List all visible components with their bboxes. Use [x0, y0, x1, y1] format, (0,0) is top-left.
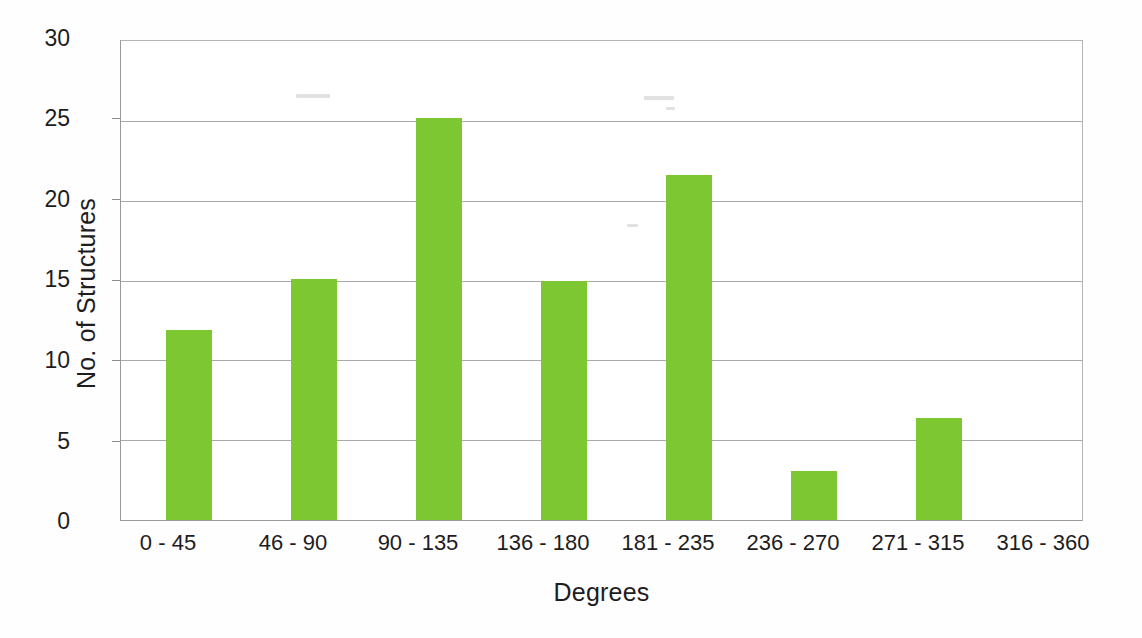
gridline-15	[121, 281, 1082, 282]
scan-artifact	[627, 224, 638, 227]
x-tick-label-5: 236 - 270	[733, 531, 853, 555]
x-tick-label-1: 46 - 90	[233, 531, 353, 555]
x-tick-label-6: 271 - 315	[858, 531, 978, 555]
bar-136-180[interactable]	[541, 281, 587, 521]
gridline-20	[121, 201, 1082, 202]
plot-area	[120, 40, 1083, 521]
y-tick-label-10: 10	[22, 349, 70, 372]
scan-artifact	[296, 94, 330, 98]
y-tick-mark-10	[112, 360, 120, 361]
scan-artifact	[666, 107, 675, 110]
y-tick-label-30: 30	[22, 27, 70, 50]
y-tick-mark-20	[112, 199, 120, 200]
y-tick-label-5: 5	[22, 430, 70, 453]
x-tick-label-7: 316 - 360	[983, 531, 1103, 555]
y-tick-label-25: 25	[22, 107, 70, 130]
y-tick-mark-15	[112, 280, 120, 281]
bar-181-235[interactable]	[666, 175, 712, 520]
bar-90-135[interactable]	[416, 118, 462, 520]
bar-0-45[interactable]	[166, 330, 212, 520]
bar-46-90[interactable]	[291, 279, 337, 520]
gridline-25	[121, 121, 1082, 122]
scan-artifact	[644, 96, 674, 100]
x-tick-label-3: 136 - 180	[483, 531, 603, 555]
bar-236-270[interactable]	[791, 471, 837, 520]
x-tick-label-0: 0 - 45	[108, 531, 228, 555]
y-tick-label-15: 15	[22, 268, 70, 291]
y-tick-mark-5	[112, 441, 120, 442]
y-axis-title: No. of Structures	[72, 129, 101, 459]
y-tick-label-0: 0	[22, 510, 70, 533]
x-tick-label-4: 181 - 235	[608, 531, 728, 555]
bar-271-315[interactable]	[916, 418, 962, 520]
gridline-10	[121, 360, 1082, 361]
bar-chart: No. of Structures 30 25 20 15 10 5 0 0 -…	[0, 0, 1142, 638]
y-tick-mark-25	[112, 118, 120, 119]
y-tick-label-20: 20	[22, 188, 70, 211]
x-tick-label-2: 90 - 135	[358, 531, 478, 555]
x-axis-title: Degrees	[120, 578, 1083, 607]
